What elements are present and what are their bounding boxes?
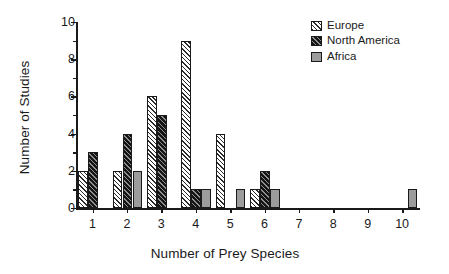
x-tick [230,209,231,213]
y-tick-minor [73,115,76,116]
legend-swatch-europe [311,21,322,31]
bar-north-america-6 [260,171,270,208]
y-tick-label: 8 [35,53,75,66]
legend-item-europe: Europe [311,19,400,32]
x-tick [265,209,266,213]
x-tick [127,209,128,213]
bar-north-america-3 [157,115,167,208]
x-tick-label: 9 [353,218,383,231]
x-tick [368,209,369,213]
bar-europe-1 [78,171,88,208]
bar-europe-5 [216,134,226,208]
x-tick-label: 1 [78,218,108,231]
bar-africa-2 [133,171,143,208]
legend-swatch-north-america [311,36,322,46]
legend-item-africa: Africa [311,50,400,63]
x-tick [196,209,197,213]
x-tick [402,209,403,213]
bar-north-america-1 [88,152,98,208]
y-axis-title: Number of Studies [17,28,32,208]
bar-europe-2 [113,171,123,208]
bar-europe-3 [147,96,157,208]
chart-legend: Europe North America Africa [311,19,400,66]
x-tick-label: 6 [250,218,280,231]
x-tick-label: 7 [284,218,314,231]
x-tick-label: 5 [215,218,245,231]
y-tick-minor [73,41,76,42]
bar-africa-5 [236,189,246,208]
bar-africa-4 [201,189,211,208]
x-tick-label: 2 [112,218,142,231]
y-tick-label: 10 [35,16,75,29]
x-tick-label: 10 [387,218,417,231]
bar-africa-10 [408,189,418,208]
bar-north-america-4 [191,189,201,208]
legend-label-north-america: North America [327,35,400,47]
legend-label-europe: Europe [327,20,364,32]
x-tick-label: 3 [146,218,176,231]
y-tick-label: 6 [35,90,75,103]
x-tick [333,209,334,213]
y-tick-minor [73,152,76,153]
bar-europe-6 [250,189,260,208]
x-tick [299,209,300,213]
legend-label-africa: Africa [327,51,356,63]
y-tick-minor [73,78,76,79]
y-tick-label: 2 [35,165,75,178]
bar-africa-6 [270,189,280,208]
legend-item-north-america: North America [311,35,400,48]
x-tick-label: 4 [181,218,211,231]
legend-swatch-africa [311,52,322,62]
chart-figure: Number of Studies 0246810 12345678910 Nu… [0,0,449,274]
x-tick [93,209,94,213]
x-tick-label: 8 [318,218,348,231]
y-tick-label: 4 [35,128,75,141]
x-axis-title: Number of Prey Species [60,246,390,261]
bar-europe-4 [181,41,191,208]
bar-north-america-2 [123,134,133,208]
y-tick-label: 0 [35,202,75,215]
x-tick [161,209,162,213]
y-tick-minor [73,189,76,190]
